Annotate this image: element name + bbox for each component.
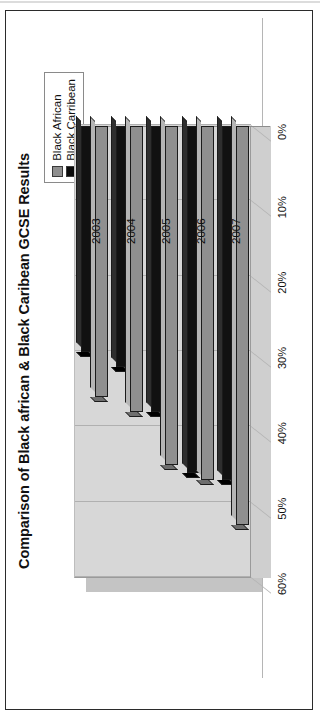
- bar-2005-black-african: [165, 126, 178, 465]
- legend-label-black-african: Black African: [51, 94, 63, 160]
- legend-item-black-african: Black African: [51, 79, 63, 177]
- gridline: [75, 576, 251, 577]
- bar-front-face: [165, 126, 178, 465]
- bar-front-face: [130, 126, 143, 412]
- plot-left-wall: [86, 578, 262, 592]
- value-tick-10pct: 10%: [276, 196, 288, 218]
- chart: Comparison of Black african & Black Cari…: [10, 16, 310, 706]
- value-tick-20pct: 20%: [276, 271, 288, 293]
- value-tick-50pct: 50%: [276, 497, 288, 519]
- gridline: [75, 500, 251, 501]
- bar-2004-black-african: [130, 126, 143, 412]
- category-label-2004: 2004: [125, 218, 137, 244]
- category-label-2005: 2005: [160, 218, 172, 244]
- bar-front-face: [236, 126, 249, 525]
- floor-gridline: [251, 501, 271, 518]
- bar-2007-black-african: [236, 126, 249, 525]
- value-tick-0pct: 0%: [276, 124, 288, 140]
- plot-area: [74, 126, 270, 578]
- value-tick-30pct: 30%: [276, 346, 288, 368]
- floor-gridline: [251, 351, 271, 368]
- category-label-2003: 2003: [90, 218, 102, 244]
- bar-2003-black-african: [95, 126, 108, 397]
- category-label-2007: 2007: [230, 218, 242, 244]
- plot-floor: [250, 126, 271, 578]
- value-tick-40pct: 40%: [276, 422, 288, 444]
- bar-2006-black-african: [201, 126, 214, 480]
- bar-front-face: [201, 126, 214, 480]
- rotated-chart-wrapper: Comparison of Black african & Black Cari…: [0, 0, 320, 721]
- value-tick-60pct: 60%: [276, 572, 288, 594]
- scanned-page: Comparison of Black african & Black Cari…: [0, 0, 320, 721]
- floor-gridline: [251, 426, 271, 443]
- legend-swatch-icon-black-african: [52, 165, 63, 176]
- floor-gridline: [251, 200, 271, 217]
- bar-front-face: [95, 126, 108, 397]
- category-label-2006: 2006: [195, 218, 207, 244]
- chart-title: Comparison of Black african & Black Cari…: [16, 16, 32, 706]
- floor-gridline: [251, 275, 271, 292]
